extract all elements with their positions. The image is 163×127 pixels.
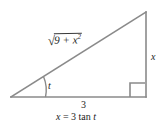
- right-angle-marker-icon: [130, 83, 145, 97]
- radicand-text: 9 + x: [54, 34, 78, 46]
- angle-arc-icon: [44, 77, 47, 98]
- radicand-group: 9 + x2: [54, 33, 82, 46]
- angle-label: t: [48, 81, 51, 91]
- caption-function: tan: [76, 111, 93, 122]
- caption-equals: =: [60, 111, 71, 122]
- adjacent-side-label: 3: [81, 100, 86, 110]
- radicand-exponent: 2: [77, 33, 81, 41]
- caption-angle: t: [93, 111, 96, 122]
- hypotenuse-label: √9 + x2: [48, 33, 82, 47]
- opposite-side-label: x: [151, 52, 155, 62]
- figure-caption: x = 3 tan t: [56, 112, 96, 122]
- triangle-hypotenuse-line: [11, 12, 146, 97]
- trig-triangle-figure: √9 + x2 x 3 t x = 3 tan t: [0, 0, 163, 127]
